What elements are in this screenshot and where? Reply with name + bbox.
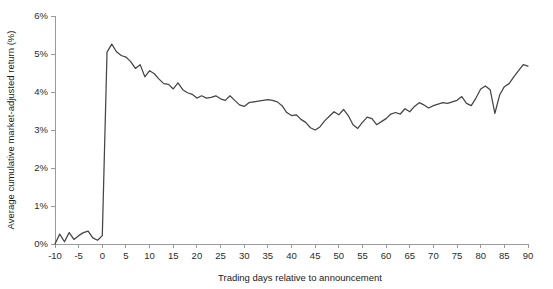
x-axis-tick-label: 0: [100, 250, 105, 261]
x-axis-tick-label: -5: [74, 250, 82, 261]
y-axis-tick-label: 4%: [34, 86, 48, 97]
x-axis-title: Trading days relative to announcement: [218, 272, 382, 283]
x-axis-tick-label: 50: [334, 250, 345, 261]
x-axis-tick-label: 45: [310, 250, 321, 261]
y-axis-title: Average cumulative market-adjusted retur…: [5, 31, 16, 230]
x-axis-tick-label: 55: [357, 250, 368, 261]
x-axis-tick-label: 10: [144, 250, 155, 261]
x-axis-tick-label: 25: [215, 250, 226, 261]
x-axis-tick-label: 65: [404, 250, 415, 261]
x-axis-tick-label: 40: [286, 250, 297, 261]
x-axis-tick-label: 75: [452, 250, 463, 261]
y-axis-tick-label: 2%: [34, 162, 48, 173]
x-axis-tick-label: 35: [263, 250, 274, 261]
x-axis-tick-label: -10: [48, 250, 62, 261]
y-axis: 0%1%2%3%4%5%6%: [34, 10, 55, 249]
x-axis-tick-label: 5: [123, 250, 128, 261]
x-axis-tick-label: 85: [499, 250, 510, 261]
x-axis-tick-label: 60: [381, 250, 392, 261]
x-axis-tick-label: 30: [239, 250, 250, 261]
y-axis-tick-label: 3%: [34, 124, 48, 135]
x-axis-tick-label: 90: [523, 250, 534, 261]
y-axis-tick-label: 1%: [34, 200, 48, 211]
series-line-0: [55, 44, 528, 244]
line-chart: 0%1%2%3%4%5%6% -10-505101520253035404550…: [0, 0, 553, 289]
chart-container: 0%1%2%3%4%5%6% -10-505101520253035404550…: [0, 0, 553, 289]
y-axis-tick-label: 5%: [34, 48, 48, 59]
data-series-group: [55, 44, 528, 244]
x-axis-tick-label: 15: [168, 250, 179, 261]
x-axis-tick-label: 20: [192, 250, 203, 261]
y-axis-tick-label: 6%: [34, 10, 48, 21]
x-axis-tick-label: 70: [428, 250, 439, 261]
x-axis-tick-label: 80: [475, 250, 486, 261]
x-axis: -10-505101520253035404550556065707580859…: [48, 244, 533, 261]
y-axis-tick-label: 0%: [34, 238, 48, 249]
